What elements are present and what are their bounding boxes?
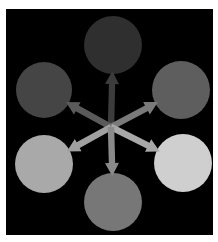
arrow-icon-to-upper-right	[110, 102, 159, 130]
circle-node-bottom	[84, 173, 142, 231]
circle-node-upper-right	[152, 61, 210, 119]
arrow-icon-to-lower-left	[67, 124, 113, 151]
circle-node-lower-left	[15, 135, 73, 193]
circle-node-top	[84, 16, 142, 74]
arrow-icon-to-bottom	[105, 127, 119, 176]
circle-node-lower-right	[154, 134, 212, 192]
arrow-icon-to-upper-left	[66, 102, 113, 130]
arrow-icon-to-lower-right	[110, 124, 160, 152]
arrow-icon-to-top	[105, 71, 119, 127]
circle-node-upper-left	[16, 62, 72, 118]
radial-arrow-diagram	[0, 0, 218, 242]
